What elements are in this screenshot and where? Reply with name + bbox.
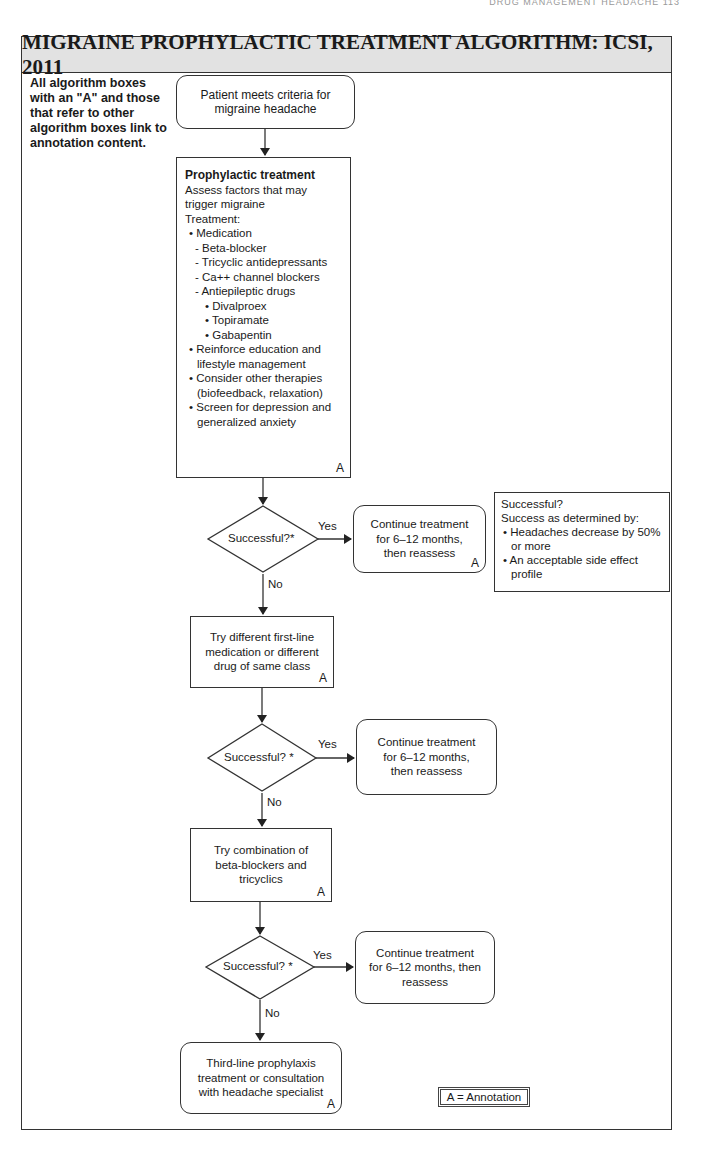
- success-note-item: • Headaches decrease by 50% or more: [501, 525, 663, 553]
- treatment-item: - Ca++ channel blockers: [185, 270, 342, 285]
- try-different-line: medication or different: [205, 645, 319, 660]
- success-note-item: • An acceptable side effect profile: [501, 553, 663, 581]
- treatment-item: - Beta-blocker: [185, 241, 342, 256]
- start-box[interactable]: Patient meets criteria for migraine head…: [176, 75, 355, 129]
- success-note-title: Successful?: [501, 497, 663, 511]
- continue-3-line: Continue treatment: [376, 946, 474, 961]
- try-combination-box[interactable]: Try combination of beta-blockers and tri…: [190, 828, 332, 902]
- try-different-medication-box[interactable]: Try different first-line medication or d…: [190, 616, 334, 688]
- continue-1-line: then reassess: [384, 546, 456, 561]
- treatment-item: • Divalproex: [185, 299, 342, 314]
- treatment-item: - Antiepileptic drugs: [185, 284, 342, 299]
- treatment-item: • Consider other therapies (biofeedback,…: [185, 371, 342, 400]
- start-line-1: Patient meets criteria for: [200, 88, 330, 103]
- treatment-item: - Tricyclic antidepressants: [185, 255, 342, 270]
- decision-1-yes: Yes: [318, 520, 337, 532]
- try-different-line: drug of same class: [214, 659, 311, 674]
- continue-1-line: Continue treatment: [371, 517, 469, 532]
- prophylactic-intro-2: trigger migraine: [185, 197, 342, 212]
- prophylactic-treatment-box[interactable]: Prophylactic treatment Assess factors th…: [176, 157, 351, 478]
- continue-treatment-box-2[interactable]: Continue treatment for 6–12 months, then…: [356, 719, 497, 795]
- success-criteria-note: Successful? Success as determined by: • …: [494, 492, 670, 592]
- try-different-line: Try different first-line: [210, 630, 314, 645]
- treatment-item: • Gabapentin: [185, 328, 342, 343]
- try-combination-line: Try combination of: [214, 843, 308, 858]
- third-line-prophylaxis-box[interactable]: Third-line prophylaxis treatment or cons…: [180, 1042, 342, 1114]
- prophylactic-header: Prophylactic treatment: [185, 168, 342, 183]
- continue-2-line: then reassess: [391, 764, 463, 779]
- annotation-marker[interactable]: A: [336, 461, 344, 476]
- prophylactic-intro-1: Assess factors that may: [185, 183, 342, 198]
- annotation-legend: A = Annotation: [438, 1087, 530, 1107]
- try-combination-line: beta-blockers and: [215, 858, 306, 873]
- decision-3-no: No: [265, 1007, 280, 1019]
- continue-3-line: reassess: [402, 975, 448, 990]
- decision-3-label: Successful? *: [223, 960, 293, 972]
- continue-3-line: for 6–12 months, then: [369, 960, 481, 975]
- start-line-2: migraine headache: [214, 102, 316, 117]
- third-line-line: Third-line prophylaxis: [206, 1056, 315, 1071]
- decision-2-label: Successful? *: [224, 751, 294, 763]
- decision-2-no: No: [267, 796, 282, 808]
- annotation-marker[interactable]: A: [319, 671, 327, 686]
- annotation-marker[interactable]: A: [327, 1097, 335, 1112]
- annotation-marker[interactable]: A: [471, 556, 479, 571]
- continue-2-line: for 6–12 months,: [383, 750, 469, 765]
- continue-1-line: for 6–12 months,: [376, 532, 462, 547]
- third-line-line: with headache specialist: [199, 1085, 324, 1100]
- continue-treatment-box-1[interactable]: Continue treatment for 6–12 months, then…: [353, 505, 486, 573]
- decision-2-yes: Yes: [318, 738, 337, 750]
- decision-1-label: Successful?*: [228, 532, 294, 544]
- treatment-item: • Medication: [185, 226, 342, 241]
- treatment-item: • Reinforce education and lifestyle mana…: [185, 342, 342, 371]
- continue-treatment-box-3[interactable]: Continue treatment for 6–12 months, then…: [355, 931, 495, 1004]
- prophylactic-intro-3: Treatment:: [185, 212, 342, 227]
- success-note-subtitle: Success as determined by:: [501, 511, 663, 525]
- treatment-item: • Screen for depression and generalized …: [185, 400, 342, 429]
- decision-1-no: No: [268, 578, 283, 590]
- treatment-item: • Topiramate: [185, 313, 342, 328]
- try-combination-line: tricyclics: [239, 872, 282, 887]
- decision-3-yes: Yes: [313, 949, 332, 961]
- annotation-marker[interactable]: A: [317, 885, 325, 900]
- continue-2-line: Continue treatment: [378, 735, 476, 750]
- third-line-line: treatment or consultation: [198, 1071, 325, 1086]
